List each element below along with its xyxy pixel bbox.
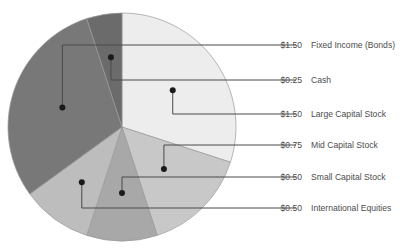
callout-label-fixed-income: Fixed Income (Bonds) <box>311 40 395 50</box>
callout-anchor-dot <box>79 179 85 185</box>
callout-value-international-equities: $0.50 <box>280 203 302 213</box>
callout-value-small-capital-stock: $0.50 <box>280 172 302 182</box>
callout-labels-group: $1.50 Fixed Income (Bonds) $0.25 Cash $1… <box>280 40 395 213</box>
callout-label-international-equities: International Equities <box>311 203 391 213</box>
callout-label-small-capital-stock: Small Capital Stock <box>311 172 386 182</box>
callout-value-fixed-income: $1.50 <box>280 40 302 50</box>
callout-value-mid-capital-stock: $0.75 <box>280 140 302 150</box>
callout-anchor-dot <box>170 87 176 93</box>
callout-label-mid-capital-stock: Mid Capital Stock <box>311 140 379 150</box>
pie-chart-svg: $1.50 Fixed Income (Bonds) $0.25 Cash $1… <box>0 0 420 251</box>
callout-label-large-capital-stock: Large Capital Stock <box>311 109 387 119</box>
callout-anchor-dot <box>119 190 125 196</box>
callout-anchor-dot <box>59 105 65 111</box>
pie-slices-group <box>8 13 236 241</box>
callout-anchor-dot <box>108 54 114 60</box>
callout-value-cash: $0.25 <box>280 75 302 85</box>
callout-anchor-dot <box>161 166 167 172</box>
callout-label-cash: Cash <box>311 75 331 85</box>
pie-chart-figure: $1.50 Fixed Income (Bonds) $0.25 Cash $1… <box>0 0 420 251</box>
callout-value-large-capital-stock: $1.50 <box>280 109 302 119</box>
